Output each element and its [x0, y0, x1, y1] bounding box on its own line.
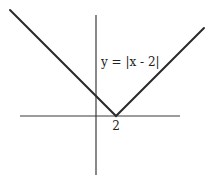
tick-label: 2 [112, 119, 120, 133]
absolute-value-graph: y = |x - 2| 2 [0, 0, 215, 183]
tick-labels: 2 [112, 119, 120, 133]
equation-label: y = |x - 2| [100, 55, 160, 69]
